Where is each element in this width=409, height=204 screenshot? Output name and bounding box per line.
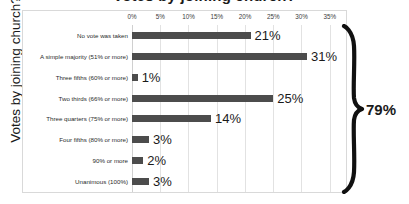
bar-row: Two thirds (66% or more)25%: [23, 88, 346, 109]
bar: [132, 95, 273, 102]
category-label: 90% or more: [23, 157, 132, 164]
category-label: Three quarters (75% or more): [23, 115, 132, 122]
bar: [132, 178, 149, 185]
x-tick-label: 10%: [182, 13, 195, 20]
category-label: Four fifths (80% or more): [23, 136, 132, 143]
bar-row: Four fifths (80% or more)3%: [23, 129, 346, 150]
bar-row: Unanimous (100%)3%: [23, 171, 346, 192]
bar-value-label: 14%: [215, 112, 241, 125]
category-label: Three fifths (60% or more): [23, 74, 132, 81]
category-label: A simple majority (51% or more): [23, 53, 132, 60]
bar-rows: No vote was taken21%A simple majority (5…: [23, 25, 346, 192]
x-tick-label: 25%: [267, 13, 280, 20]
bar-row: Three quarters (75% or more)14%: [23, 109, 346, 130]
y-axis-title: Votes by joining church?: [8, 0, 23, 155]
bar-value-label: 21%: [255, 29, 281, 42]
x-tick-label: 0%: [127, 13, 136, 20]
x-tick-label: 35%: [323, 13, 336, 20]
category-label: Two thirds (66% or more): [23, 95, 132, 102]
bar: [132, 136, 149, 143]
category-label: Unanimous (100%): [23, 178, 132, 185]
x-tick-label: 20%: [239, 13, 252, 20]
x-tick-label: 5%: [156, 13, 165, 20]
x-axis: 0%5%10%15%20%25%30%35%: [23, 11, 348, 25]
chart-container: Votes by joining church? Votes by joinin…: [0, 0, 409, 204]
bar-value-label: 1%: [142, 71, 161, 84]
bar-value-label: 31%: [311, 50, 337, 63]
x-tick-label: 30%: [295, 13, 308, 20]
chart-title: Votes by joining church?: [0, 0, 409, 5]
category-label: No vote was taken: [23, 32, 132, 39]
bar: [132, 53, 307, 60]
bar: [132, 32, 251, 39]
bar-row: Three fifths (60% or more)1%: [23, 67, 346, 88]
x-tick-label: 15%: [210, 13, 223, 20]
bar-value-label: 3%: [153, 133, 172, 146]
total-callout-label: 79%: [366, 101, 396, 118]
bar-row: A simple majority (51% or more)31%: [23, 46, 346, 67]
bar: [132, 74, 138, 81]
bar-value-label: 3%: [153, 175, 172, 188]
bar-value-label: 25%: [277, 92, 303, 105]
bar: [132, 115, 211, 122]
bar: [132, 157, 143, 164]
bar-value-label: 2%: [147, 154, 166, 167]
plot-area: 0%5%10%15%20%25%30%35% No vote was taken…: [22, 10, 347, 193]
bar-row: No vote was taken21%: [23, 25, 346, 46]
bar-row: 90% or more2%: [23, 150, 346, 171]
